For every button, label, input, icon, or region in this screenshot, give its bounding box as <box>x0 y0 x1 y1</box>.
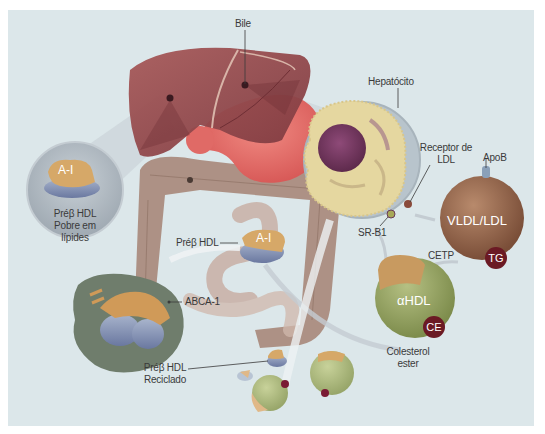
apo-a1-mid-label: A-I <box>256 231 271 245</box>
sr-b1-label: SR-B1 <box>358 227 386 239</box>
hepatocyte-label: Hepatócito <box>368 76 414 88</box>
macrophage-cell <box>73 274 184 373</box>
sr-b1-receptor <box>387 210 395 218</box>
ce-badge: CE <box>423 316 445 338</box>
prebeta-poor-label: Préβ HDL Pobre em lípides <box>45 208 105 244</box>
cetp-label: CETP <box>428 250 454 262</box>
vldl-ldl-label: VLDL/LDL <box>447 213 507 228</box>
flow-arrow-vldl-to-receptor <box>415 215 435 220</box>
tg-badge: TG <box>485 247 507 269</box>
recycled-particles <box>237 350 354 412</box>
alpha-hdl-label: αHDL <box>397 293 431 308</box>
prebeta-recycled-label: Préβ HDL Reciclado <box>140 362 190 386</box>
small-intestine <box>190 210 293 330</box>
prebeta-hdl-label: Préβ HDL <box>176 237 219 249</box>
bile-label: Bile <box>235 18 251 30</box>
sr-b1-leader-line <box>380 217 388 226</box>
recycled-leader-line <box>188 361 268 369</box>
ldl-receptor-label: Receptor de LDL <box>418 142 474 166</box>
intestine-marker-dot <box>187 177 193 183</box>
apob-label: ApoB <box>483 152 507 164</box>
vldl-ldl-particle <box>440 158 524 260</box>
apo-a1-inset-label: A-I <box>58 163 73 177</box>
cholesterol-ester-label: Colesterol ester <box>378 346 438 370</box>
hepatocyte-cell <box>304 101 420 218</box>
liver-marker-dot <box>167 95 174 102</box>
abca1-label: ABCA-1 <box>185 296 220 308</box>
